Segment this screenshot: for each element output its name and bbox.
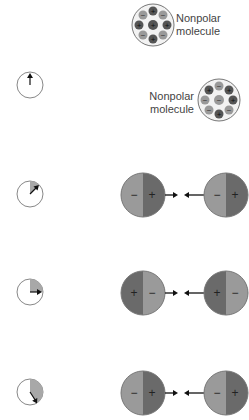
svg-text:+: + (231, 96, 236, 105)
nonpolar-molecule-second: − + + − + − − + − (196, 77, 242, 123)
dipole-pair-stage-3: − + − + (120, 370, 249, 418)
svg-text:+: + (217, 110, 222, 119)
svg-text:−: − (161, 11, 166, 20)
clock-icon-stage-2 (16, 278, 44, 306)
dipole-molecule-left: − + (120, 172, 166, 218)
svg-text:+: + (148, 188, 155, 202)
svg-text:+: + (207, 86, 212, 95)
dipole-molecule-right: − + (203, 172, 249, 218)
dipole-molecule-right: + − (203, 270, 249, 316)
dipole-molecule-left: + − (120, 270, 166, 316)
svg-text:+: + (231, 386, 238, 400)
clock-icon-stage-3 (16, 378, 44, 406)
svg-text:+: + (148, 386, 155, 400)
clock-icon-stage-1 (16, 180, 44, 208)
dipole-pair-stage-1: − + − + (120, 172, 249, 220)
svg-text:+: + (231, 188, 238, 202)
clock-icon-stage-0 (16, 71, 44, 99)
label-line-2: molecule (140, 103, 194, 116)
label-line-1: Nonpolar (140, 90, 194, 103)
svg-text:−: − (217, 96, 222, 105)
svg-text:+: + (165, 21, 170, 30)
svg-text:+: + (137, 21, 142, 30)
svg-text:−: − (213, 188, 220, 202)
svg-text:−: − (227, 106, 232, 115)
svg-text:−: − (207, 106, 212, 115)
label-line-1: Nonpolar (176, 12, 221, 25)
svg-text:−: − (203, 96, 208, 105)
svg-text:+: + (227, 86, 232, 95)
label-line-2: molecule (176, 25, 221, 38)
svg-text:−: − (130, 188, 137, 202)
svg-text:−: − (217, 82, 222, 91)
electron-cloud-charges: + − + − + − + − + (135, 7, 172, 45)
svg-text:+: + (151, 21, 156, 30)
svg-text:−: − (141, 11, 146, 20)
svg-text:−: − (141, 31, 146, 40)
dipole-molecule-left: − + (120, 370, 166, 416)
dipole-pair-stage-2: + − + − (120, 270, 249, 318)
nonpolar-molecule-top: + − + − + − + − + (130, 2, 176, 48)
svg-text:−: − (130, 386, 137, 400)
svg-text:+: + (151, 7, 156, 16)
svg-text:+: + (130, 286, 137, 300)
svg-text:−: − (161, 31, 166, 40)
svg-text:+: + (151, 35, 156, 44)
svg-text:−: − (148, 286, 155, 300)
molecule-label-second: Nonpolar molecule (140, 90, 194, 116)
svg-text:+: + (213, 286, 220, 300)
molecule-label-top: Nonpolar molecule (176, 12, 221, 38)
svg-text:−: − (231, 286, 238, 300)
svg-text:−: − (213, 386, 220, 400)
dipole-molecule-right: − + (203, 370, 249, 416)
